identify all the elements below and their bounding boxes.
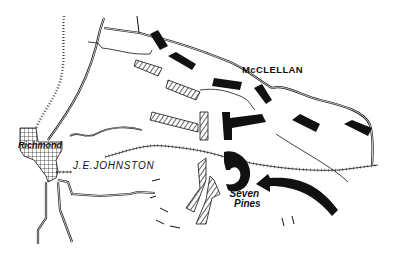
road-top: [104, 28, 272, 88]
richmond-city-area: [20, 128, 62, 182]
label-mcclellan: McCLELLAN: [242, 64, 303, 75]
label-pines: Pines: [228, 199, 261, 209]
road-northeast: [48, 18, 104, 140]
battle-map: [0, 0, 397, 260]
label-richmond: Richmond: [18, 140, 62, 150]
confederate-positions: [134, 60, 220, 224]
label-seven-pines: Seven Pines: [228, 189, 261, 209]
approach-dashes: [150, 179, 294, 228]
railroad-north: [36, 16, 64, 128]
label-johnston: J.E.JOHNSTON: [73, 160, 155, 171]
road-southeast: [58, 180, 155, 196]
road-south-1: [38, 182, 46, 244]
